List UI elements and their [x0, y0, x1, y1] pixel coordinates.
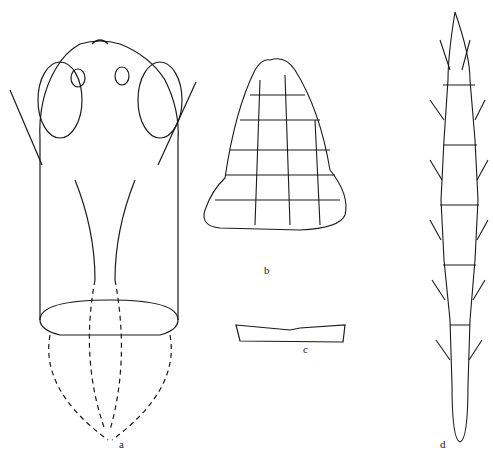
- figure-plate: a b c d: [0, 0, 493, 456]
- panel-c-drawing: [236, 325, 345, 342]
- panel-c-label: c: [303, 343, 308, 355]
- line-drawing: [0, 0, 493, 456]
- panel-b-drawing: [204, 59, 346, 230]
- panel-b-label: b: [264, 264, 270, 276]
- panel-d-label: d: [440, 438, 446, 450]
- panel-d-drawing: [430, 12, 488, 442]
- panel-a-drawing: [10, 40, 196, 440]
- panel-a-label: a: [119, 438, 124, 450]
